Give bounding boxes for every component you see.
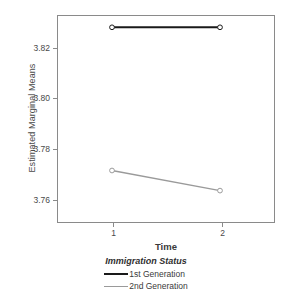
data-point-marker <box>218 25 223 30</box>
x-axis-tick: 1 <box>113 222 114 227</box>
y-axis-tick-label: 3.78 <box>33 144 50 154</box>
y-axis-tick-label: 3.80 <box>33 93 50 103</box>
y-axis-tick: 3.76 <box>53 200 58 201</box>
legend: Immigration Status 1st Generation2nd Gen… <box>0 256 292 292</box>
legend-item-label: 1st Generation <box>129 268 185 280</box>
x-axis-title: Time <box>57 241 275 252</box>
legend-item-list: 1st Generation2nd Generation <box>104 268 188 292</box>
data-point-marker <box>218 188 223 193</box>
legend-item[interactable]: 1st Generation <box>104 268 188 280</box>
legend-item-label: 2nd Generation <box>129 280 188 292</box>
x-axis-tick-label: 2 <box>213 228 233 238</box>
x-axis-tick: 2 <box>222 222 223 227</box>
y-axis-tick-label: 3.82 <box>33 43 50 53</box>
x-axis-tick-label: 1 <box>104 228 124 238</box>
legend-line-icon <box>104 273 128 275</box>
series-2 <box>110 168 223 193</box>
series-1 <box>110 25 223 30</box>
legend-line-icon <box>104 286 128 287</box>
plot-area: 3.823.803.783.7612 <box>57 15 275 223</box>
profile-plot: Estimated Marginal Means 3.823.803.783.7… <box>0 0 292 294</box>
y-axis-tick: 3.78 <box>53 149 58 150</box>
y-axis-tick: 3.80 <box>53 98 58 99</box>
data-point-marker <box>110 168 115 173</box>
legend-item[interactable]: 2nd Generation <box>104 280 188 292</box>
series-line <box>112 171 220 191</box>
y-axis-tick-label: 3.76 <box>33 195 50 205</box>
series-layer <box>58 16 274 222</box>
data-point-marker <box>110 25 115 30</box>
y-axis-tick: 3.82 <box>53 48 58 49</box>
legend-title: Immigration Status <box>0 256 292 266</box>
